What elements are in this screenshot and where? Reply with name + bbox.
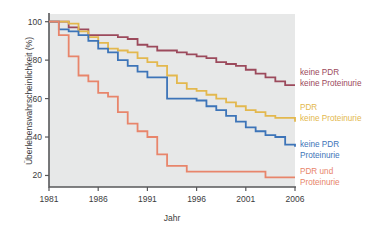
- x-tick-label: 2001: [228, 194, 264, 204]
- series-line-3: [49, 22, 295, 147]
- axes-group: [45, 13, 296, 191]
- legend-label-line2: Proteinurie: [300, 151, 340, 162]
- x-tick-label: 1991: [129, 194, 165, 204]
- series-group: [49, 22, 295, 178]
- legend-entry-3: keine PDRProteinurie: [300, 140, 340, 161]
- legend-label-line2: keine Proteinurie: [300, 79, 361, 90]
- x-tick-label: 1986: [80, 194, 116, 204]
- x-tick-label: 1996: [179, 194, 215, 204]
- series-line-4: [49, 22, 295, 178]
- legend-label-line2: Proteinurie: [300, 178, 340, 189]
- axis-lines: [49, 13, 296, 187]
- series-line-2: [49, 22, 295, 122]
- legend-label-line1: PDR: [300, 103, 361, 114]
- x-tick-label: 2006: [277, 194, 313, 204]
- legend-entry-4: PDR undProteinurie: [300, 167, 340, 188]
- x-axis-title: Jahr: [49, 213, 295, 223]
- x-tick-label: 1981: [31, 194, 67, 204]
- y-axis-title: Überlebenswahrscheinlichkeit (%): [24, 31, 34, 171]
- legend-label-line1: PDR und: [300, 167, 340, 178]
- legend-label-line1: keine PDR: [300, 68, 361, 79]
- survival-chart: 20406080100 198119861991199620012006 Übe…: [0, 0, 382, 237]
- legend-label-line1: keine PDR: [300, 140, 340, 151]
- legend-entry-1: keine PDRkeine Proteinurie: [300, 68, 361, 89]
- y-tick-label: 20: [11, 170, 42, 180]
- legend-entry-2: PDRkeine Proteinurie: [300, 103, 361, 124]
- y-tick-label: 100: [11, 17, 42, 27]
- legend-label-line2: keine Proteinurie: [300, 114, 361, 125]
